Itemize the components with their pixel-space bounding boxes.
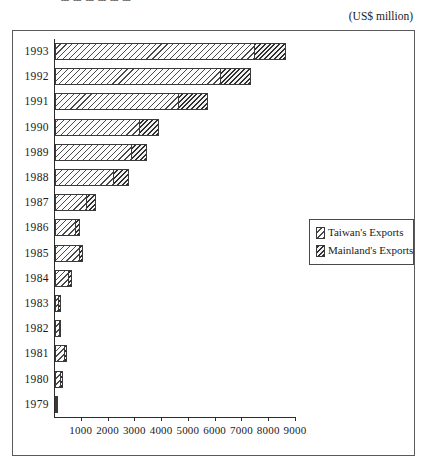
category-label-1990: 1990: [13, 115, 49, 140]
bar-row: 1980: [13, 367, 313, 392]
x-axis-tick: [268, 417, 269, 421]
bar-row: 1984: [13, 266, 313, 291]
bar-segment-mainland: [68, 270, 72, 287]
bar-segment-mainland: [64, 345, 66, 362]
bar-segment-taiwan: [55, 219, 76, 236]
bar-segment-mainland: [113, 169, 129, 186]
bar-segment-taiwan: [55, 270, 69, 287]
bar-segment-taiwan: [55, 194, 87, 211]
bar-segment-mainland: [131, 144, 147, 161]
bar-row: 1993: [13, 39, 313, 64]
cropped-title-strip: ɯ ɯ ɯ ɯ ɯ ɯ: [0, 0, 431, 7]
category-label-1993: 1993: [13, 39, 49, 64]
bar-segment-mainland: [254, 43, 286, 60]
bar-segment-taiwan: [55, 119, 140, 136]
bar-segment-mainland: [86, 194, 96, 211]
category-label-1986: 1986: [13, 215, 49, 240]
x-axis-tick: [134, 417, 135, 421]
bar-stack-1983: [55, 295, 61, 312]
legend-entry-mainland: Mainland's Exports: [316, 243, 407, 258]
category-label-1980: 1980: [13, 367, 49, 392]
bar-row: 1986: [13, 215, 313, 240]
bar-row: 1990: [13, 115, 313, 140]
bar-segment-taiwan: [55, 144, 132, 161]
x-axis-tick: [241, 417, 242, 421]
category-label-1984: 1984: [13, 266, 49, 291]
x-axis-tick: [215, 417, 216, 421]
x-axis-tick: [108, 417, 109, 421]
bar-stack-1990: [55, 119, 159, 136]
x-axis-tick: [161, 417, 162, 421]
bar-stack-1991: [55, 93, 208, 110]
category-axis-line: [54, 417, 296, 418]
bar-segment-mainland: [60, 371, 62, 388]
bar-stack-1984: [55, 270, 72, 287]
bar-row: 1985: [13, 241, 313, 266]
bar-row: 1979: [13, 392, 313, 417]
chart-legend: Taiwan's Exports Mainland's Exports: [309, 219, 414, 265]
bar-segment-taiwan: [55, 93, 179, 110]
category-label-1985: 1985: [13, 241, 49, 266]
bar-segment-mainland: [139, 119, 159, 136]
bar-row: 1989: [13, 140, 313, 165]
bar-stack-1979: [55, 396, 58, 413]
unit-caption: (US$ million): [349, 10, 413, 22]
bar-segment-mainland: [220, 68, 251, 85]
category-label-1991: 1991: [13, 89, 49, 114]
bar-segment-taiwan: [55, 245, 80, 262]
bar-segment-mainland: [178, 93, 208, 110]
x-axis-tick: [295, 417, 296, 421]
bar-row: 1991: [13, 89, 313, 114]
bar-segment-mainland: [56, 396, 58, 413]
bar-stack-1985: [55, 245, 83, 262]
bar-row: 1981: [13, 341, 313, 366]
bar-segment-taiwan: [55, 68, 221, 85]
legend-label-taiwan: Taiwan's Exports: [328, 226, 403, 239]
bar-stack-1993: [55, 43, 286, 60]
bar-stack-1982: [55, 320, 61, 337]
bar-segment-mainland: [59, 320, 61, 337]
bar-row: 1987: [13, 190, 313, 215]
category-label-1992: 1992: [13, 64, 49, 89]
bar-segment-mainland: [75, 219, 80, 236]
x-axis-tick: [188, 417, 189, 421]
category-label-1982: 1982: [13, 316, 49, 341]
legend-swatch-taiwan-icon: [316, 227, 325, 239]
category-label-1981: 1981: [13, 341, 49, 366]
bar-segment-taiwan: [55, 169, 114, 186]
bar-stack-1989: [55, 144, 147, 161]
x-axis-tick-label: 9000: [275, 424, 315, 436]
bar-stack-1987: [55, 194, 96, 211]
category-label-1979: 1979: [13, 392, 49, 417]
chart-title-partial: ɯ ɯ ɯ ɯ ɯ ɯ: [60, 0, 131, 3]
category-label-1989: 1989: [13, 140, 49, 165]
bar-segment-mainland: [79, 245, 83, 262]
legend-swatch-mainland-icon: [316, 245, 325, 257]
plot-area: 1993199219911990198919881987198619851984…: [13, 31, 416, 457]
legend-label-mainland: Mainland's Exports: [328, 244, 413, 257]
legend-entry-taiwan: Taiwan's Exports: [316, 225, 407, 240]
bar-row: 1988: [13, 165, 313, 190]
bar-stack-1981: [55, 345, 67, 362]
bar-segment-mainland: [58, 295, 60, 312]
bar-stack-1992: [55, 68, 251, 85]
x-axis-tick: [81, 417, 82, 421]
category-label-1988: 1988: [13, 165, 49, 190]
chart-frame: 1993199219911990198919881987198619851984…: [12, 30, 415, 456]
category-label-1983: 1983: [13, 291, 49, 316]
category-label-1987: 1987: [13, 190, 49, 215]
bar-stack-1980: [55, 371, 63, 388]
bar-segment-taiwan: [55, 43, 255, 60]
bar-row: 1983: [13, 291, 313, 316]
bar-stack-1988: [55, 169, 129, 186]
bar-row: 1982: [13, 316, 313, 341]
bar-stack-1986: [55, 219, 80, 236]
bar-row: 1992: [13, 64, 313, 89]
